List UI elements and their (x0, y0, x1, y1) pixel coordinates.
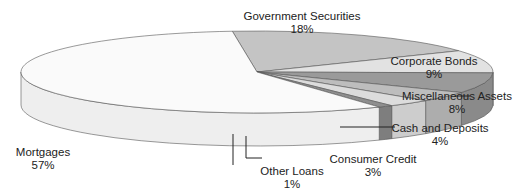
label-name: Government Securities (244, 10, 361, 23)
label-name: Mortgages (16, 146, 70, 159)
label-name: Corporate Bonds (391, 55, 478, 68)
label-pct: 18% (244, 23, 361, 36)
label-cash-and-deposits: Cash and Deposits 4% (391, 122, 488, 148)
label-government-securities: Government Securities 18% (244, 10, 361, 36)
label-pct: 57% (16, 159, 70, 172)
label-name: Miscellaneous Assets (402, 90, 512, 103)
label-pct: 1% (260, 178, 323, 191)
label-pct: 3% (330, 166, 417, 179)
label-consumer-credit: Consumer Credit 3% (330, 153, 417, 179)
pie-side-5 (379, 106, 391, 140)
label-corporate-bonds: Corporate Bonds 9% (391, 55, 478, 81)
label-other-loans: Other Loans 1% (260, 165, 323, 191)
label-mortgages: Mortgages 57% (16, 146, 70, 172)
label-name: Consumer Credit (330, 153, 417, 166)
label-pct: 9% (391, 68, 478, 81)
label-name: Other Loans (260, 165, 323, 178)
label-pct: 4% (391, 135, 488, 148)
label-miscellaneous-assets: Miscellaneous Assets 8% (402, 90, 512, 116)
label-name: Cash and Deposits (391, 122, 488, 135)
label-pct: 8% (402, 103, 512, 116)
